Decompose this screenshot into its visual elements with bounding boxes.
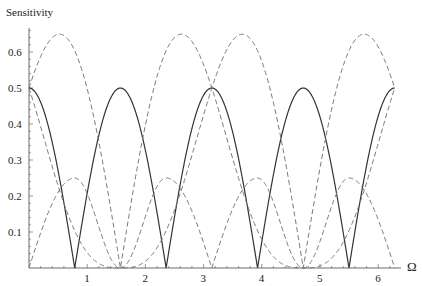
y-tick-label: 0.3 (8, 154, 22, 166)
x-tick-label: 2 (142, 272, 148, 284)
plot-area: 1234560.10.20.30.40.50.6 Sensitivity Ω (0, 0, 423, 286)
y-tick-label: 0.2 (8, 190, 22, 202)
sensitivity-chart: 1234560.10.20.30.40.50.6 Sensitivity Ω (0, 0, 423, 286)
solid-curve (29, 88, 395, 268)
x-tick-label: 6 (375, 272, 381, 284)
x-tick-label: 1 (84, 272, 90, 284)
x-axis-label: Ω (407, 259, 417, 274)
x-tick-label: 4 (259, 272, 265, 284)
dashed-c-curve (29, 178, 395, 268)
dashed-a-curve (29, 34, 395, 268)
dashed-b-curve (29, 34, 395, 268)
y-tick-label: 0.5 (8, 82, 22, 94)
curves (29, 34, 395, 268)
y-axis-label: Sensitivity (6, 6, 54, 18)
y-tick-label: 0.1 (8, 226, 22, 238)
y-tick-label: 0.4 (8, 118, 22, 130)
y-tick-label: 0.6 (8, 46, 22, 58)
x-tick-label: 3 (201, 272, 207, 284)
x-tick-label: 5 (317, 272, 323, 284)
